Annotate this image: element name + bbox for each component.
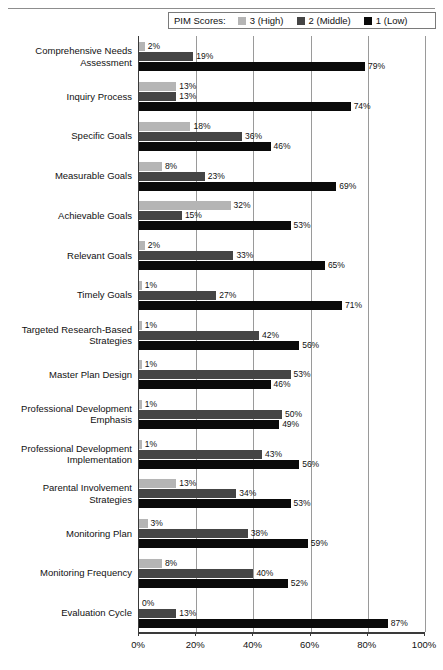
legend-item-1-low: 1 (Low) <box>364 15 408 26</box>
bar-value-label: 27% <box>216 290 236 300</box>
category-row: Evaluation Cycle0%13%87% <box>0 599 443 628</box>
x-tick-40 <box>252 632 253 636</box>
category-row: Targeted Research-Based Strategies1%42%5… <box>0 321 443 350</box>
bar-2-middle- <box>139 52 193 61</box>
x-tick-80 <box>367 632 368 636</box>
category-label: Measurable Goals <box>6 170 132 182</box>
category-row: Comprehensive Needs Assessment2%19%79% <box>0 42 443 71</box>
category-row: Professional Development Implementation1… <box>0 440 443 469</box>
chart-legend: PIM Scores: 3 (High) 2 (Middle) 1 (Low) <box>168 12 436 29</box>
category-label: Evaluation Cycle <box>6 607 132 619</box>
bar-value-label: 19% <box>193 51 213 61</box>
bar-value-label: 3% <box>148 518 163 528</box>
x-tick-20 <box>195 632 196 636</box>
bar-value-label: 38% <box>248 528 268 538</box>
bar-value-label: 13% <box>176 81 196 91</box>
bar-2-middle- <box>139 410 282 419</box>
x-tick-label-20: 20% <box>186 639 205 650</box>
bar-value-label: 1% <box>142 359 157 369</box>
bar-value-label: 32% <box>231 200 251 210</box>
category-row: Measurable Goals8%23%69% <box>0 162 443 191</box>
bar-1-low- <box>139 301 342 310</box>
bar-value-label: 42% <box>259 330 279 340</box>
bar-value-label: 2% <box>145 41 160 51</box>
bar-value-label: 53% <box>291 369 311 379</box>
bar-1-low- <box>139 102 351 111</box>
category-row: Monitoring Frequency8%40%52% <box>0 559 443 588</box>
category-label: Timely Goals <box>6 289 132 301</box>
bar-value-label: 53% <box>291 220 311 230</box>
bar-value-label: 1% <box>142 320 157 330</box>
category-label: Comprehensive Needs Assessment <box>6 45 132 68</box>
bar-2-middle- <box>139 132 242 141</box>
category-row: Specific Goals18%36%46% <box>0 122 443 151</box>
bar-value-label: 71% <box>342 300 362 310</box>
bar-1-low- <box>139 420 279 429</box>
bar-value-label: 1% <box>142 399 157 409</box>
bar-value-label: 1% <box>142 439 157 449</box>
bar-1-low- <box>139 341 299 350</box>
bar-value-label: 59% <box>308 538 328 548</box>
pim-scores-bar-chart: PIM Scores: 3 (High) 2 (Middle) 1 (Low) … <box>0 0 443 670</box>
legend-item-3-high: 3 (High) <box>238 15 284 26</box>
bar-value-label: 8% <box>162 558 177 568</box>
category-label: Master Plan Design <box>6 369 132 381</box>
bar-value-label: 8% <box>162 161 177 171</box>
bar-value-label: 2% <box>145 240 160 250</box>
bar-value-label: 50% <box>282 409 302 419</box>
legend-label-3-high: 3 (High) <box>250 15 284 26</box>
category-label: Achievable Goals <box>6 210 132 222</box>
legend-title: PIM Scores: <box>174 15 226 26</box>
bar-2-middle- <box>139 331 259 340</box>
bar-value-label: 65% <box>325 260 345 270</box>
bar-2-middle- <box>139 609 176 618</box>
bar-value-label: 40% <box>253 568 273 578</box>
bar-value-label: 13% <box>176 91 196 101</box>
category-label: Parental Involvement Strategies <box>6 482 132 505</box>
category-label: Professional Development Emphasis <box>6 403 132 426</box>
bar-value-label: 0% <box>139 598 154 608</box>
bar-3-high- <box>139 162 162 171</box>
bar-2-middle- <box>139 211 182 220</box>
bar-value-label: 1% <box>142 280 157 290</box>
bar-1-low- <box>139 499 291 508</box>
bar-2-middle- <box>139 251 233 260</box>
category-label: Specific Goals <box>6 130 132 142</box>
bar-value-label: 13% <box>176 478 196 488</box>
x-tick-label-80: 80% <box>357 639 376 650</box>
category-row: Inquiry Process13%13%74% <box>0 82 443 111</box>
bar-2-middle- <box>139 569 253 578</box>
bar-value-label: 36% <box>242 131 262 141</box>
bar-value-label: 53% <box>291 498 311 508</box>
top-divider <box>8 8 435 9</box>
legend-label-2-middle: 2 (Middle) <box>309 15 351 26</box>
bar-1-low- <box>139 619 388 628</box>
bar-value-label: 56% <box>299 459 319 469</box>
bar-2-middle- <box>139 172 205 181</box>
x-tick-label-100: 100% <box>412 639 436 650</box>
bar-value-label: 15% <box>182 210 202 220</box>
bar-1-low- <box>139 182 336 191</box>
bar-2-middle- <box>139 370 291 379</box>
bar-2-middle- <box>139 291 216 300</box>
category-label: Relevant Goals <box>6 250 132 262</box>
bar-value-label: 74% <box>351 101 371 111</box>
bar-3-high- <box>139 82 176 91</box>
category-row: Relevant Goals2%33%65% <box>0 241 443 270</box>
bar-value-label: 56% <box>299 340 319 350</box>
bar-value-label: 33% <box>233 250 253 260</box>
category-row: Master Plan Design1%53%46% <box>0 360 443 389</box>
x-axis-line <box>138 632 425 634</box>
category-row: Achievable Goals32%15%53% <box>0 201 443 230</box>
bar-value-label: 23% <box>205 171 225 181</box>
category-label: Monitoring Plan <box>6 528 132 540</box>
bar-3-high- <box>139 519 148 528</box>
bar-value-label: 79% <box>365 61 385 71</box>
bar-value-label: 49% <box>279 419 299 429</box>
bar-value-label: 18% <box>190 121 210 131</box>
bar-value-label: 13% <box>176 608 196 618</box>
category-row: Timely Goals1%27%71% <box>0 281 443 310</box>
bar-1-low- <box>139 221 291 230</box>
bar-1-low- <box>139 62 365 71</box>
category-row: Professional Development Emphasis1%50%49… <box>0 400 443 429</box>
